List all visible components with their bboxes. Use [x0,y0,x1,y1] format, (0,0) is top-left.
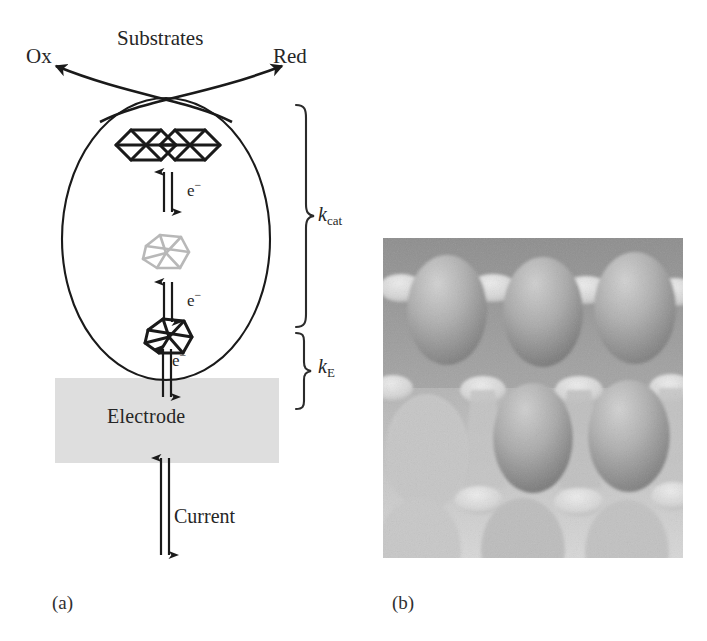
label-electron-upper: e− [187,178,201,201]
diagram-vector-layer [0,0,370,641]
label-ox: Ox [26,44,52,69]
panel-b-photo [383,238,683,558]
cluster-middle [143,235,189,268]
equilibrium-arrows-upper [164,172,172,212]
equilibrium-arrows-lower [164,282,172,322]
label-electrode: Electrode [107,405,185,428]
label-electron-lower: e− [187,288,201,311]
label-electron-electrode: e− [172,348,186,371]
label-k-e: kE [318,355,335,378]
panel-label-a: (a) [52,592,73,614]
equilibrium-arrows-electrode [163,349,171,397]
brace-kE [296,333,311,409]
label-substrates: Substrates [117,26,203,51]
panel-a-schematic: Substrates Ox Red e− e− e− kcat kE Elect… [0,0,370,641]
label-current: Current [174,505,235,528]
arc-to-ox [56,66,232,122]
label-red: Red [273,44,307,69]
current-arrows [161,458,169,555]
brace-kcat [296,105,314,327]
panel-label-b: (b) [392,592,414,614]
arc-to-red [100,66,282,122]
label-k-cat: kcat [318,203,342,226]
egg-carton-image [383,238,683,558]
figure-root: Substrates Ox Red e− e− e− kcat kE Elect… [0,0,707,641]
cluster-top [116,130,220,160]
